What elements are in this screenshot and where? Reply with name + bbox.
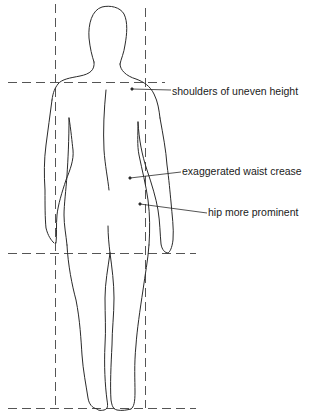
right-leg-inner — [110, 253, 131, 410]
left-shoulder-outline — [52, 62, 94, 100]
left-torso-side — [64, 118, 69, 245]
waist-leader — [130, 172, 181, 178]
right-outer-arm — [160, 118, 173, 253]
shoulders-leader — [132, 89, 171, 90]
gluteal-cleft — [108, 226, 110, 253]
left-leg-inner — [97, 253, 110, 410]
annotation-waist-crease: exaggerated waist crease — [182, 166, 302, 177]
hip-leader — [140, 204, 207, 213]
right-leg-outer — [131, 245, 149, 409]
left-outer-arm — [44, 100, 54, 243]
right-shoulder-outline — [120, 64, 160, 118]
guide-lines — [8, 4, 196, 409]
waist-leader-dot — [129, 177, 131, 179]
diagram-canvas: shoulders of uneven height exaggerated w… — [0, 0, 315, 417]
head-outline — [89, 6, 127, 64]
shoulders-leader-dot — [131, 88, 133, 90]
hip-leader-dot — [139, 203, 141, 205]
left-leg-outer — [67, 245, 97, 409]
spine-line — [104, 90, 109, 190]
leader-lines — [129, 88, 207, 213]
annotation-shoulders: shoulders of uneven height — [172, 86, 298, 97]
right-inner-arm — [138, 122, 168, 253]
annotation-hip: hip more prominent — [208, 207, 298, 218]
figure-outline — [44, 6, 173, 410]
